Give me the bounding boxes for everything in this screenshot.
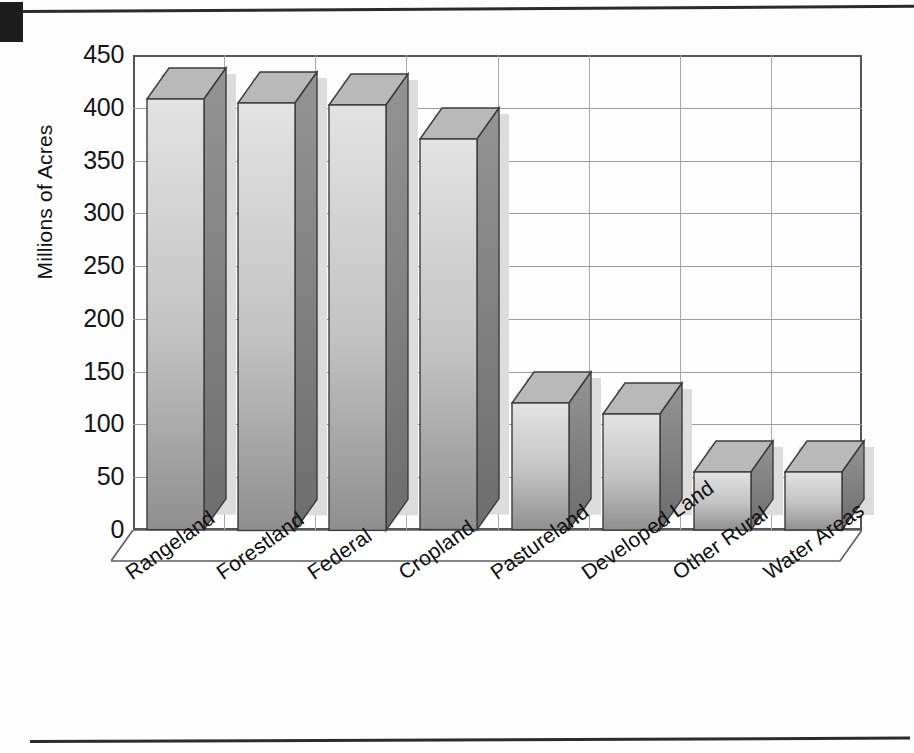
bar-federal <box>329 74 422 546</box>
y-axis-tick-labels: 050100150200250300350400450 <box>58 0 124 753</box>
bar-cropland <box>420 108 513 546</box>
y-axis-tick-label: 50 <box>62 464 124 489</box>
y-axis-tick-label: 250 <box>62 253 124 278</box>
y-axis-tick-label: 450 <box>62 42 124 67</box>
y-axis-tick-label: 400 <box>62 95 124 120</box>
scanned-page: Millions of Acres 0501001502002503003504… <box>0 0 914 753</box>
y-axis-tick-label: 350 <box>62 148 124 173</box>
bar-rangeland <box>147 68 240 546</box>
y-axis-tick-label: 200 <box>62 306 124 331</box>
y-axis-tick-label: 150 <box>62 359 124 384</box>
bar-chart: Millions of Acres 0501001502002503003504… <box>0 0 914 753</box>
y-axis-tick-label: 300 <box>62 200 124 225</box>
y-axis-tick-label: 100 <box>62 411 124 436</box>
y-axis-title: Millions of Acres <box>33 82 57 322</box>
bar-forestland <box>238 72 331 547</box>
